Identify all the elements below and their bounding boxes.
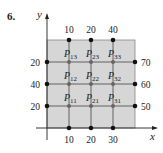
left-value: 20 [31, 102, 41, 112]
y-axis-label: y [36, 8, 42, 20]
top-value: 20 [86, 25, 96, 35]
right-value: 60 [141, 80, 151, 90]
top-value: 40 [108, 25, 118, 35]
left-value: 20 [31, 58, 41, 68]
top-value: 10 [64, 25, 74, 35]
right-value: 50 [141, 102, 151, 112]
bottom-value: 10 [64, 135, 74, 145]
bottom-value: 20 [86, 135, 96, 145]
left-value: 40 [31, 80, 41, 90]
right-value: 70 [141, 58, 151, 68]
grid-diagram: y x 6. 10 20 40 10 20 30 20 40 20 70 60 … [0, 0, 163, 153]
bottom-value: 30 [108, 135, 118, 145]
problem-number: 6. [7, 10, 16, 22]
y-axis-arrow-icon [45, 13, 49, 19]
x-axis-label: x [149, 130, 155, 142]
